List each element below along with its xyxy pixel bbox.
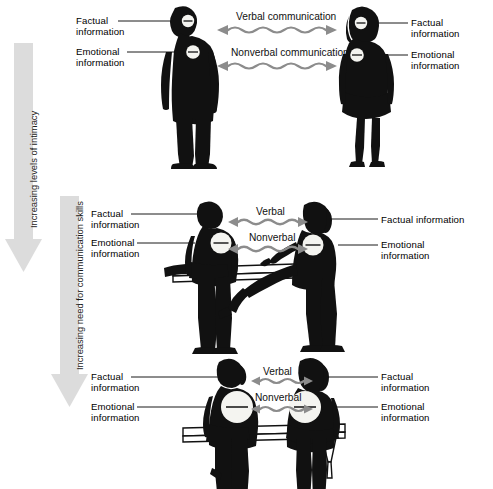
standing-right-emotional-label: Emotional information — [411, 49, 460, 72]
standing-woman-silhouette — [339, 7, 394, 168]
standing-pair-graphics — [118, 6, 408, 169]
standing-man-silhouette — [161, 6, 219, 169]
bench-apart-right-emotional-label: Emotional information — [381, 239, 430, 262]
standing-left-factual-label: Factual information — [76, 15, 125, 38]
bench-apart-left-factual-label: Factual information — [91, 208, 140, 231]
verbal-channel-arrow-bench-apart — [228, 217, 308, 227]
communication-skills-arrow-label: Increasing need for communication skills — [75, 201, 85, 370]
standing-verbal-channel-label: Verbal communication — [236, 11, 336, 23]
seated-close-man-silhouette — [203, 359, 258, 489]
bench-apart-right-factual-label: Factual information — [381, 214, 464, 225]
intimacy-arrow-label: Increasing levels of intimacy — [29, 111, 39, 228]
standing-nonverbal-channel-label: Nonverbal communication — [231, 47, 349, 59]
bench-close-right-factual-label: Factual information — [381, 371, 430, 394]
leader-lines-right-bench-apart — [330, 219, 378, 245]
bench-close-left-factual-label: Factual information — [91, 371, 140, 394]
nonverbal-channel-arrow-standing — [217, 61, 337, 71]
bench-apart-verbal-channel-label: Verbal — [256, 206, 285, 218]
bench-close-verbal-channel-label: Verbal — [263, 366, 292, 378]
bench-seated-apart-graphics — [131, 201, 378, 354]
standing-left-emotional-label: Emotional information — [76, 46, 125, 69]
figure-canvas: Increasing levels of intimacy Increasing… — [0, 0, 493, 489]
bench-close-right-emotional-label: Emotional information — [381, 401, 430, 424]
bench-close-nonverbal-channel-label: Nonverbal — [255, 392, 301, 404]
standing-right-factual-label: Factual information — [411, 17, 460, 40]
verbal-channel-arrow-standing — [217, 25, 337, 35]
bench-close-left-emotional-label: Emotional information — [91, 401, 140, 424]
bench-apart-nonverbal-channel-label: Nonverbal — [249, 232, 295, 244]
bench-seated-close-graphics — [131, 358, 378, 489]
bench-apart-left-emotional-label: Emotional information — [91, 237, 140, 260]
